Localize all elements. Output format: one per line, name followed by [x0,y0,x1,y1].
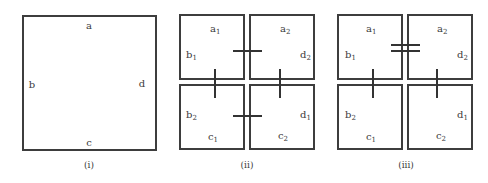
label-a1: a1 [366,23,376,36]
label-a2: a2 [437,23,447,36]
panel-iii: a1 b1 a2 d2 b2 c1 d1 c2 (iii) [338,15,472,170]
square [23,16,156,150]
label-a1: a1 [210,23,220,36]
label-b2: b2 [345,109,356,122]
label-c2: c2 [278,130,288,143]
label-c: c [86,137,92,148]
label-d1: d1 [457,109,468,122]
label-c1: c1 [366,131,376,144]
label-b: b [29,79,35,90]
caption-ii: (ii) [241,160,254,170]
panel-i: a b d c (i) [23,16,156,170]
label-d2: d2 [457,49,468,62]
label-a: a [86,20,92,31]
label-c2: c2 [436,130,446,143]
label-b1: b1 [186,49,197,62]
label-d2: d2 [300,49,311,62]
caption-iii: (iii) [398,160,414,170]
label-d1: d1 [300,109,311,122]
panel-ii: a1 b1 a2 d2 b2 c1 d1 c2 (ii) [180,15,314,170]
diagram-canvas: a b d c (i) a1 b1 a2 d2 b2 c1 d1 c2 (ii) [0,0,488,183]
label-c1: c1 [208,131,218,144]
label-a2: a2 [280,23,290,36]
label-d: d [139,78,146,89]
caption-i: (i) [84,160,94,170]
label-b2: b2 [186,109,197,122]
label-b1: b1 [345,49,356,62]
